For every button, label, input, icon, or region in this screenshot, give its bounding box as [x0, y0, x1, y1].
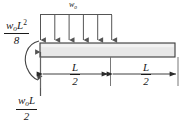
beam-diagram: woL2 8 woL 2 wo L 2 L 2: [0, 0, 189, 122]
reaction-label: woL 2: [16, 95, 37, 122]
beam: [40, 43, 175, 57]
applied-moment-arrow: [25, 41, 39, 80]
dimension-right-numerator: L: [141, 62, 151, 73]
dimension-left-numerator: L: [70, 62, 80, 73]
dimension-lines: [41, 57, 179, 88]
moment-denominator: 8: [4, 35, 29, 46]
beam-highlight: [41, 44, 174, 47]
reaction-fraction: woL 2: [16, 95, 37, 122]
dimension-left-denominator: 2: [70, 76, 80, 87]
dimension-right-fraction: L 2: [141, 62, 151, 87]
distributed-load-group: [40, 15, 112, 41]
dimension-left-label: L 2: [70, 62, 80, 87]
moment-numerator: woL2: [4, 19, 29, 32]
moment-fraction: woL2 8: [4, 19, 29, 46]
reaction-denominator: 2: [16, 111, 37, 122]
dimension-left-fraction: L 2: [70, 62, 80, 87]
moment-curve: [25, 41, 39, 80]
moment-label: woL2 8: [4, 19, 29, 46]
reaction-numerator: woL: [16, 95, 37, 108]
load-label: wo: [69, 1, 77, 10]
dimension-right-label: L 2: [141, 62, 151, 87]
dimension-right-denominator: 2: [141, 76, 151, 87]
